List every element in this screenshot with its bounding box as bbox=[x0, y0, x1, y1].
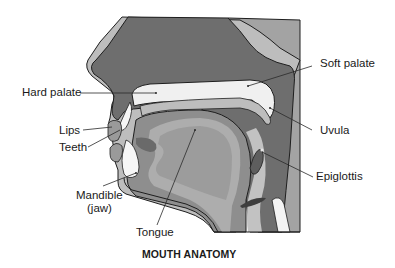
label-jaw: (jaw) bbox=[87, 202, 112, 215]
label-epiglottis: Epiglottis bbox=[316, 170, 363, 183]
label-soft-palate: Soft palate bbox=[320, 57, 375, 70]
label-hard-palate: Hard palate bbox=[22, 86, 81, 99]
label-uvula: Uvula bbox=[320, 124, 349, 137]
label-lips: Lips bbox=[59, 124, 80, 137]
label-teeth: Teeth bbox=[59, 141, 87, 154]
label-mandible: Mandible bbox=[76, 189, 123, 202]
lower-lip bbox=[110, 143, 123, 162]
diagram-title: MOUTH ANATOMY bbox=[142, 248, 236, 260]
label-tongue: Tongue bbox=[136, 226, 174, 239]
